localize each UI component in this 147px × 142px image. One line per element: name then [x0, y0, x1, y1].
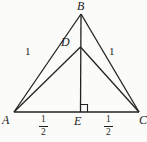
segment-AD [14, 47, 81, 112]
vertex-label-A: A [2, 114, 9, 126]
fraction-denominator: 2 [104, 127, 113, 138]
vertex-label-C: C [139, 114, 147, 126]
side-length-label-BC: 1 [109, 46, 115, 57]
segment-BE [81, 14, 82, 112]
segment-AB [14, 14, 81, 112]
fraction-numerator: 1 [104, 115, 113, 127]
right-angle-mark [81, 105, 88, 113]
side-length-label-AB: 1 [25, 46, 31, 57]
geometry-figure: B A C D E 1 1 1 2 1 2 [0, 0, 147, 142]
base-length-label-AE: 1 2 [39, 115, 48, 137]
vertex-label-E: E [74, 115, 81, 127]
fraction-denominator: 2 [39, 127, 48, 138]
segment-BC [81, 14, 139, 112]
vertex-label-B: B [77, 0, 84, 12]
base-length-label-EC: 1 2 [104, 115, 113, 137]
fraction-numerator: 1 [39, 115, 48, 127]
vertex-label-D: D [61, 36, 70, 48]
